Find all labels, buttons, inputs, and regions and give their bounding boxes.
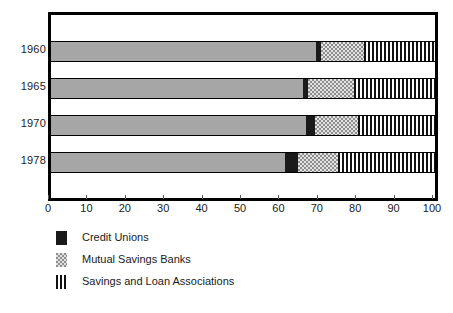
x-axis-tick (432, 195, 433, 199)
x-axis-tick (202, 195, 203, 199)
bar-segment-mutual-savings-banks-1970 (315, 116, 358, 135)
bar-segment-base-1965 (51, 79, 303, 98)
x-axis-tick (355, 195, 356, 199)
x-axis-tick-label-30: 30 (157, 202, 169, 214)
bar-segment-mutual-savings-banks-1965 (308, 79, 354, 98)
y-axis-label-1960: 1960 (2, 44, 46, 55)
x-axis-tick (48, 195, 49, 199)
x-axis-tick (86, 195, 87, 199)
x-axis-tick (240, 195, 241, 199)
bar-segment-savings-and-loan-1978 (338, 153, 435, 172)
x-axis-tick-label-20: 20 (119, 202, 131, 214)
legend-label-credit-unions: Credit Unions (82, 231, 149, 244)
bar-segment-base-1970 (51, 116, 306, 135)
legend-label-savings-and-loan: Savings and Loan Associations (82, 275, 234, 288)
x-axis-tick (394, 195, 395, 199)
bar-segment-credit-unions-1978 (285, 153, 298, 172)
y-axis-label-1965: 1965 (2, 81, 46, 92)
legend: Credit Unions Mutual Savings Banks Savin… (56, 228, 396, 294)
x-axis-tick (317, 195, 318, 199)
legend-item-mutual-savings-banks: Mutual Savings Banks (56, 250, 396, 269)
legend-swatch-credit-unions-icon (56, 231, 67, 245)
x-axis: 0 10 20 30 40 50 60 70 80 90 100 (48, 195, 432, 221)
legend-item-credit-unions: Credit Unions (56, 228, 396, 247)
x-axis-tick-label-90: 90 (387, 202, 399, 214)
plot-area (51, 15, 435, 198)
x-axis-tick (125, 195, 126, 199)
y-axis-category-labels: 1960 1965 1970 1978 (0, 0, 46, 200)
y-axis-label-1970: 1970 (2, 118, 46, 129)
legend-label-mutual-savings-banks: Mutual Savings Banks (82, 253, 191, 266)
legend-swatch-mutual-savings-banks-icon (56, 253, 67, 267)
x-axis-tick-label-80: 80 (349, 202, 361, 214)
bar-segment-savings-and-loan-1960 (364, 42, 435, 61)
bar-segment-base-1960 (51, 42, 316, 61)
plot-frame (48, 12, 438, 201)
bar-segment-credit-unions-1970 (306, 116, 315, 135)
x-axis-tick-label-50: 50 (234, 202, 246, 214)
legend-item-savings-and-loan: Savings and Loan Associations (56, 272, 396, 291)
legend-swatch-savings-and-loan-icon (56, 275, 67, 289)
stacked-bar-chart: 1960 1965 1970 1978 (0, 0, 453, 313)
x-axis-tick (163, 195, 164, 199)
x-axis-tick (278, 195, 279, 199)
y-axis-label-1978: 1978 (2, 155, 46, 166)
table-row (51, 78, 435, 99)
x-axis-tick-label-100: 100 (423, 202, 441, 214)
bar-segment-savings-and-loan-1965 (354, 79, 435, 98)
bar-segment-base-1978 (51, 153, 285, 172)
bar-segment-mutual-savings-banks-1978 (298, 153, 338, 172)
x-axis-tick-label-60: 60 (272, 202, 284, 214)
x-axis-tick-label-10: 10 (80, 202, 92, 214)
table-row (51, 41, 435, 62)
table-row (51, 115, 435, 136)
x-axis-tick-label-70: 70 (311, 202, 323, 214)
bar-segment-savings-and-loan-1970 (358, 116, 435, 135)
x-axis-tick-label-40: 40 (195, 202, 207, 214)
x-axis-tick-label-0: 0 (45, 202, 51, 214)
table-row (51, 152, 435, 173)
bar-segment-mutual-savings-banks-1960 (321, 42, 364, 61)
